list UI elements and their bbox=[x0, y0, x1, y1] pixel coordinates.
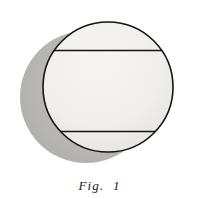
main-circle bbox=[43, 22, 173, 152]
sphere-with-chords-diagram bbox=[0, 0, 199, 199]
figure-container: Fig. 1 bbox=[0, 0, 199, 199]
figure-caption: Fig. 1 bbox=[0, 178, 199, 194]
